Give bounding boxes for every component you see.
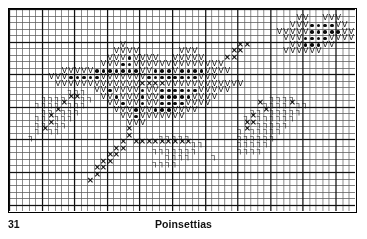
v-stitch-symbol: V: [224, 86, 231, 94]
v-stitch-symbol: V: [100, 93, 107, 101]
filled-dot-symbol: [317, 30, 321, 34]
corner-stitch-symbol: ┐: [211, 151, 218, 159]
corner-stitch-symbol: ┐: [257, 145, 264, 153]
v-stitch-symbol: V: [218, 86, 225, 94]
cross-stitch-symbol: ✕: [113, 151, 120, 159]
v-stitch-symbol: V: [205, 99, 212, 107]
corner-stitch-symbol: ┐: [87, 93, 94, 101]
cross-stitch-symbol: ✕: [107, 158, 114, 166]
filled-dot-symbol: [160, 69, 164, 73]
v-stitch-symbol: V: [348, 34, 355, 42]
filled-dot-symbol: [187, 69, 191, 73]
filled-dot-symbol: [160, 89, 164, 93]
v-stitch-symbol: V: [152, 99, 159, 107]
filled-dot-symbol: [310, 24, 314, 28]
v-stitch-symbol: V: [146, 112, 153, 120]
v-stitch-symbol: V: [283, 47, 290, 55]
filled-dot-symbol: [187, 89, 191, 93]
v-stitch-symbol: V: [165, 112, 172, 120]
v-stitch-symbol: V: [165, 60, 172, 68]
filled-dot-symbol: [160, 95, 164, 99]
corner-stitch-symbol: ┐: [74, 106, 81, 114]
filled-dot-symbol: [141, 89, 145, 93]
cross-stitch-symbol: ✕: [87, 177, 94, 185]
filled-dot-symbol: [323, 24, 327, 28]
v-stitch-symbol: V: [302, 28, 309, 36]
v-stitch-symbol: V: [179, 112, 186, 120]
v-stitch-symbol: V: [146, 67, 153, 75]
chart-title: Poinsettias: [0, 218, 367, 230]
filled-dot-symbol: [128, 56, 132, 60]
v-stitch-symbol: V: [87, 67, 94, 75]
chart-symbol-layer: VVVVVVVVVVVVVVVVVVVVVVVVV✕✕VVVVVVVVVVV✕✕…: [9, 9, 356, 212]
corner-stitch-symbol: ┐: [302, 99, 309, 107]
filled-dot-symbol: [173, 89, 177, 93]
v-stitch-symbol: V: [172, 67, 179, 75]
filled-dot-symbol: [95, 69, 99, 73]
v-stitch-symbol: V: [237, 80, 244, 88]
v-stitch-symbol: V: [283, 34, 290, 42]
v-stitch-symbol: V: [100, 60, 107, 68]
v-stitch-symbol: V: [165, 80, 172, 88]
v-stitch-symbol: V: [218, 67, 225, 75]
corner-stitch-symbol: ┐: [237, 145, 244, 153]
filled-dot-symbol: [317, 37, 321, 41]
corner-stitch-symbol: ┐: [172, 158, 179, 166]
v-stitch-symbol: V: [328, 14, 335, 22]
v-stitch-symbol: V: [139, 119, 146, 127]
v-stitch-symbol: V: [120, 54, 127, 62]
filled-dot-symbol: [180, 89, 184, 93]
v-stitch-symbol: V: [328, 41, 335, 49]
filled-dot-symbol: [323, 30, 327, 34]
cross-stitch-symbol: ✕: [120, 145, 127, 153]
chart-page: VVVVVVVVVVVVVVVVVVVVVVVVV✕✕VVVVVVVVVVV✕✕…: [0, 0, 367, 239]
cross-stitch-symbol: ✕: [146, 138, 153, 146]
corner-stitch-symbol: ┐: [81, 99, 88, 107]
corner-stitch-symbol: ┐: [283, 119, 290, 127]
v-stitch-symbol: V: [192, 60, 199, 68]
v-stitch-symbol: V: [192, 80, 199, 88]
v-stitch-symbol: V: [74, 67, 81, 75]
cross-stitch-symbol: ✕: [100, 164, 107, 172]
filled-dot-symbol: [317, 24, 321, 28]
filled-dot-symbol: [180, 95, 184, 99]
filled-dot-symbol: [167, 95, 171, 99]
cross-stitch-symbol: ✕: [237, 47, 244, 55]
corner-stitch-symbol: ┐: [270, 132, 277, 140]
corner-stitch-symbol: ┐: [165, 158, 172, 166]
filled-dot-symbol: [134, 108, 138, 112]
corner-stitch-symbol: ┐: [296, 106, 303, 114]
corner-stitch-symbol: ┐: [192, 145, 199, 153]
v-stitch-symbol: V: [309, 47, 316, 55]
cross-stitch-symbol: ✕: [94, 171, 101, 179]
filled-dot-symbol: [310, 30, 314, 34]
v-stitch-symbol: V: [192, 106, 199, 114]
filled-dot-symbol: [310, 37, 314, 41]
filled-dot-symbol: [160, 102, 164, 106]
filled-dot-symbol: [304, 37, 308, 41]
filled-dot-symbol: [167, 102, 171, 106]
cross-stitch-symbol: ✕: [244, 41, 251, 49]
chart-caption: 31 Poinsettias: [0, 214, 367, 239]
v-stitch-symbol: V: [211, 93, 218, 101]
corner-stitch-symbol: ┐: [55, 125, 62, 133]
corner-stitch-symbol: ┐: [29, 132, 36, 140]
corner-stitch-symbol: ┐: [289, 112, 296, 120]
filled-dot-symbol: [121, 63, 125, 67]
v-stitch-symbol: V: [120, 93, 127, 101]
corner-stitch-symbol: ┐: [185, 151, 192, 159]
filled-dot-symbol: [167, 69, 171, 73]
filled-dot-symbol: [193, 69, 197, 73]
cross-stitch-chart: VVVVVVVVVVVVVVVVVVVVVVVVV✕✕VVVVVVVVVVV✕✕…: [8, 8, 357, 213]
filled-dot-symbol: [330, 24, 334, 28]
filled-dot-symbol: [173, 95, 177, 99]
corner-stitch-symbol: ┐: [61, 119, 68, 127]
corner-stitch-symbol: ┐: [68, 112, 75, 120]
v-stitch-symbol: V: [224, 67, 231, 75]
filled-dot-symbol: [128, 63, 132, 67]
v-stitch-symbol: V: [113, 60, 120, 68]
v-stitch-symbol: V: [315, 47, 322, 55]
corner-stitch-symbol: ┐: [276, 125, 283, 133]
filled-dot-symbol: [180, 69, 184, 73]
filled-dot-symbol: [154, 69, 158, 73]
